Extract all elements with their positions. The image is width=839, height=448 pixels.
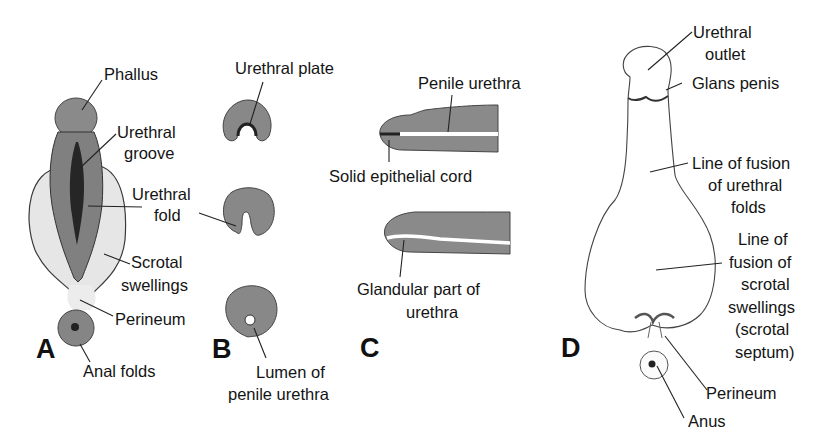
label-urethral-plate: Urethral plate [235,58,334,78]
label-urethral-groove-line1: Urethral [117,122,176,142]
panel-c-drawing [380,95,510,277]
label-fusion-scrotal-line1: Line of [738,229,788,249]
label-urethral-groove-line2: groove [124,143,174,163]
penile-urethra-section [226,286,277,337]
panel-letter-a: A [36,335,56,363]
label-urethral-fold-line1: Urethral [132,184,191,204]
label-phallus: Phallus [104,64,158,84]
lumen-shape [245,315,255,325]
label-anal-folds: Anal folds [83,361,155,381]
label-glans-penis: Glans penis [692,73,779,93]
label-fusion-urethral-line1: Line of fusion [692,153,790,173]
panel-letter-c: C [360,334,380,362]
label-lumen-line2: penile urethra [228,384,329,404]
label-solid-epithelial-cord: Solid epithelial cord [329,166,472,186]
label-glandular-line1: Glandular part of [357,279,480,299]
label-fusion-scrotal-line4: swellings [728,297,795,317]
penile-urethra-section-long [380,105,498,152]
label-fusion-urethral-line2: of urethral [708,175,782,195]
panel-b-drawing [199,82,277,358]
label-fusion-scrotal-line5: (scrotal [735,319,789,339]
label-fusion-scrotal-line2: fusion of [729,252,791,272]
label-urethral-outlet-line1: Urethral [693,22,752,42]
label-lumen-line1: Lumen of [256,362,325,382]
label-penile-urethra: Penile urethra [418,73,521,93]
urethral-plate-section [223,100,271,141]
label-urethral-outlet-line2: outlet [705,44,745,64]
perineum-shape [67,285,95,310]
label-anus: Anus [688,411,726,431]
label-glandular-line2: urethra [406,302,458,322]
label-perineum-a: Perineum [115,309,186,329]
label-fusion-urethral-line3: folds [731,197,766,217]
panel-letter-d: D [561,334,581,362]
label-fusion-scrotal-line3: scrotal [741,274,790,294]
urethral-fold-section [223,188,274,236]
panel-letter-b: B [212,335,232,363]
label-urethral-fold-line2: fold [154,205,181,225]
label-fusion-scrotal-line6: septum) [735,342,795,362]
label-perineum-d: Perineum [706,383,777,403]
anus-dot [71,323,79,331]
label-scrotal-swellings-line2: swellings [121,275,188,295]
label-scrotal-swellings-line1: Scrotal [131,252,182,272]
